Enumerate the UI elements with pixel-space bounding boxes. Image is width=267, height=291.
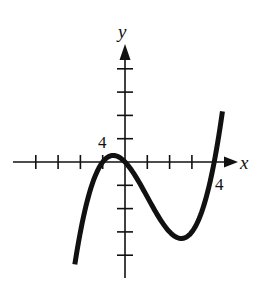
x-axis-label: x [239,152,249,173]
cubic-function-graph: y x 4 4 [0,0,267,291]
function-curve [75,111,223,264]
x-tick-label: 4 [215,175,224,194]
y-axis-label: y [116,21,127,42]
y-tick-label: 4 [98,133,107,152]
x-axis-arrow-icon [224,157,238,168]
y-axis-arrow-icon [120,44,131,60]
